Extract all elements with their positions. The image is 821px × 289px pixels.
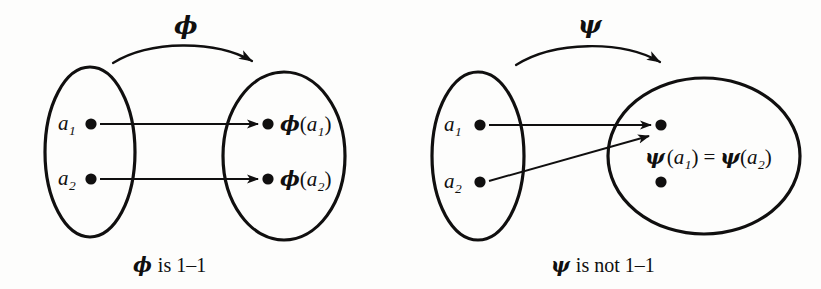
phi-panel-graphics	[45, 45, 345, 240]
psi-caption-text: is not 1–1	[570, 254, 655, 276]
phi-panel-caption: ϕis 1–1	[133, 255, 206, 275]
phi-map-symbol: ϕ	[174, 13, 198, 38]
psi-eq-right-arg-base: a	[747, 145, 758, 169]
phi-domain-ellipse	[45, 67, 135, 237]
psi-map-symbol: ψ	[578, 12, 602, 37]
psi-eq-left-open-paren: (	[665, 145, 674, 169]
phi-image-2-symbol: ϕ	[280, 166, 300, 191]
phi-domain-a1-base: a	[58, 111, 69, 135]
phi-domain-a2-base: a	[58, 166, 69, 190]
psi-domain-label-a1: a1	[444, 114, 462, 138]
phi-codomain-dot-image-a1	[262, 118, 273, 129]
psi-eq-left-symbol: ψ	[645, 144, 665, 169]
psi-caption-symbol: ψ	[551, 253, 570, 277]
psi-panel-caption: ψis not 1–1	[551, 255, 655, 275]
phi-map-curved-arrow	[113, 45, 252, 63]
psi-shared-image-equation: ψ(a1)=ψ(a2)	[645, 146, 772, 171]
phi-image-1-close-paren: )	[324, 112, 331, 136]
psi-mapping-arrow-2	[489, 136, 649, 181]
psi-eq-left-arg-base: a	[674, 145, 685, 169]
phi-image-label-2: ϕ(a2)	[280, 168, 331, 193]
phi-domain-dot-a1	[85, 118, 96, 129]
psi-codomain-dot-shared-image	[655, 119, 666, 130]
psi-map-curved-arrow	[516, 46, 660, 65]
figure-root: ϕ a1 a2 ϕ(a1) ϕ(a2) ϕis 1–1 ψ a1 a2 ψ(a1…	[0, 0, 821, 289]
psi-domain-dot-a2	[474, 176, 485, 187]
psi-codomain-dot-unmapped	[655, 176, 666, 187]
phi-image-2-close-paren: )	[324, 167, 331, 191]
psi-domain-label-a2: a2	[444, 171, 462, 195]
psi-eq-right-open-paren: (	[740, 145, 747, 169]
psi-eq-right-arg-sub: 2	[758, 157, 765, 172]
phi-domain-label-a1: a1	[58, 113, 76, 137]
phi-image-2-arg-base: a	[307, 167, 318, 191]
psi-domain-a1-sub: 1	[455, 124, 462, 139]
phi-domain-dot-a2	[85, 173, 96, 184]
psi-domain-a1-base: a	[444, 112, 455, 136]
phi-image-2-open-paren: (	[300, 167, 307, 191]
phi-domain-a2-sub: 2	[69, 178, 76, 193]
phi-caption-text: is 1–1	[152, 254, 206, 276]
psi-domain-a2-sub: 2	[455, 181, 462, 196]
psi-panel-graphics	[432, 46, 800, 240]
phi-codomain-ellipse	[223, 72, 345, 240]
psi-eq-relation: =	[698, 145, 720, 169]
phi-domain-label-a2: a2	[58, 168, 76, 192]
psi-eq-right-symbol: ψ	[720, 144, 740, 169]
psi-domain-ellipse	[432, 72, 524, 240]
phi-image-label-1: ϕ(a1)	[280, 113, 331, 138]
phi-image-1-arg-base: a	[307, 112, 318, 136]
phi-caption-symbol: ϕ	[133, 253, 152, 277]
psi-domain-a2-base: a	[444, 169, 455, 193]
psi-domain-dot-a1	[474, 119, 485, 130]
phi-image-1-open-paren: (	[300, 112, 307, 136]
phi-codomain-dot-image-a2	[262, 173, 273, 184]
psi-eq-right-close-paren: )	[765, 145, 772, 169]
phi-image-1-symbol: ϕ	[280, 111, 300, 136]
phi-domain-a1-sub: 1	[69, 123, 76, 138]
